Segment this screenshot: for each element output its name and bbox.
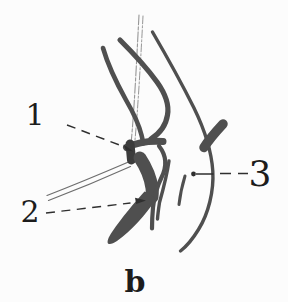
figure-caption: b — [125, 264, 146, 299]
contour-stub — [204, 124, 223, 148]
junction-slab — [140, 158, 152, 197]
leader-3-dot — [191, 172, 196, 177]
diagram-drawing: 1 2 3 b — [0, 0, 288, 302]
needle-left-upper-edge — [47, 162, 129, 196]
vessel-stroke-inner-tip — [179, 176, 185, 205]
leader-line-3 — [191, 172, 248, 177]
junction-knob — [130, 144, 132, 160]
leader-1-dashes — [67, 125, 126, 148]
label-2: 2 — [20, 194, 39, 229]
label-3: 3 — [249, 153, 272, 194]
label-1: 1 — [25, 97, 44, 132]
vessel-blade — [108, 192, 156, 245]
figure: 1 2 3 b — [0, 0, 288, 302]
vessel-stroke-upper-mid — [120, 40, 168, 139]
needle-line-left — [47, 162, 131, 201]
needle-left-lower-edge — [49, 167, 131, 201]
leader-2-dashes — [46, 203, 131, 213]
